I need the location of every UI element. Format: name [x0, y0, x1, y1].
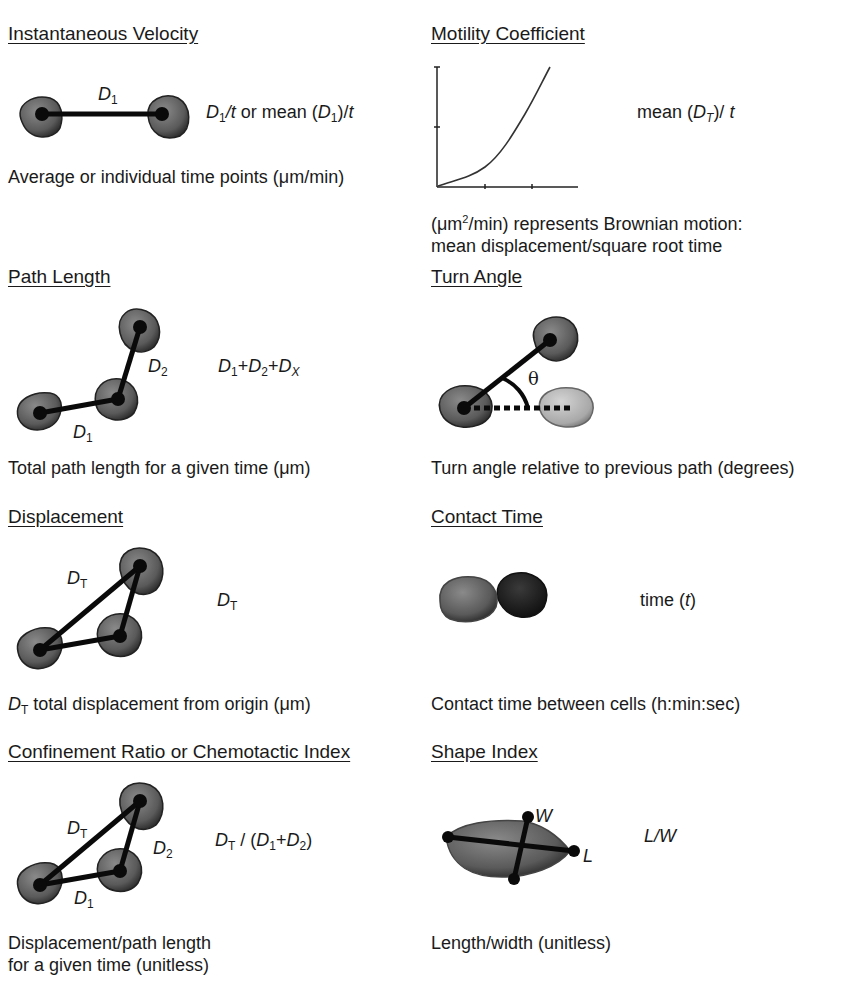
displacement-formula: DT — [217, 590, 237, 613]
panel-title: Instantaneous Velocity — [8, 23, 198, 45]
panel-title: Confinement Ratio or Chemotactic Index — [8, 741, 350, 763]
distance-label: D1 — [98, 84, 118, 107]
d2-label: D2 — [153, 838, 173, 861]
confinement-formula: DT / (D1+D2) — [215, 830, 312, 853]
panel-description: Length/width (unitless) — [431, 932, 611, 954]
panel-title: Motility Coefficient — [431, 23, 585, 45]
motility-curve — [438, 67, 550, 186]
motility-formula: mean (DT)/ t — [637, 102, 734, 125]
motility-chart — [430, 62, 590, 192]
dt-label: DT — [67, 568, 87, 591]
path-length-formula: D1+D2+DX — [218, 356, 299, 379]
panel-description: Contact time between cells (h:min:sec) — [431, 693, 740, 715]
panel-description: (μm2/min) represents Brownian motion: me… — [431, 208, 743, 257]
theta-label: θ — [528, 368, 539, 389]
panel-description: Total path length for a given time (μm) — [8, 457, 311, 479]
d1-label: D1 — [74, 888, 94, 911]
velocity-formula: D1/t or mean (D1)/t — [206, 102, 353, 125]
shape-index-formula: L/W — [644, 826, 676, 847]
panel-title: Shape Index — [431, 741, 538, 763]
length-label: L — [583, 846, 593, 867]
panel-description: Displacement/path length for a given tim… — [8, 932, 211, 976]
contact-time-formula: time (t) — [640, 590, 696, 611]
d2-label: D2 — [148, 356, 168, 379]
d1-label: D1 — [73, 422, 93, 445]
panel-title: Displacement — [8, 506, 123, 528]
dt-label: DT — [67, 818, 87, 841]
panel-title: Turn Angle — [431, 266, 522, 288]
panel-description: Turn angle relative to previous path (de… — [431, 457, 795, 479]
contact-cells-icon — [430, 565, 560, 635]
displacement-diagram-icon — [0, 540, 180, 680]
panel-description: Average or individual time points (μm/mi… — [8, 166, 344, 188]
panel-title: Path Length — [8, 266, 110, 288]
panel-title: Contact Time — [431, 506, 543, 528]
shape-index-diagram-icon — [430, 805, 590, 895]
width-label: W — [535, 806, 552, 827]
turn-angle-diagram-icon — [430, 310, 610, 440]
panel-description: DT total displacement from origin (μm) — [8, 693, 311, 721]
